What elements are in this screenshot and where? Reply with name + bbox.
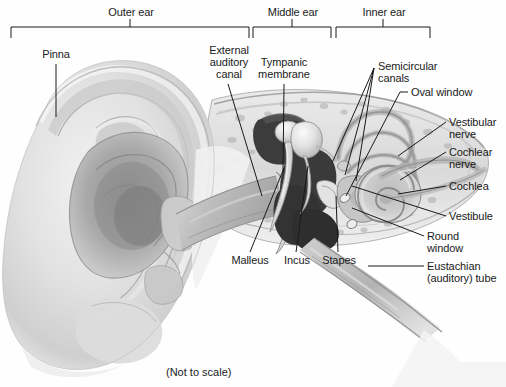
label-eustachian-tube-line2: (auditory) tube xyxy=(427,272,496,284)
bracket-label-middle-ear: Middle ear xyxy=(258,6,328,18)
label-vestibular-nerve-line1: Vestibular xyxy=(449,116,496,128)
label-round-window-line2: window xyxy=(427,242,463,254)
label-vestibule: Vestibule xyxy=(449,210,493,222)
label-external-auditory-canal-line1: External xyxy=(198,44,260,56)
label-malleus: Malleus xyxy=(222,254,278,266)
label-round-window-line1: Round xyxy=(427,230,459,242)
label-cochlea: Cochlea xyxy=(449,180,489,192)
label-semicircular-canals-line2: canals xyxy=(378,72,409,84)
ear-anatomy-diagram: Outer ear Middle ear Inner ear Pinna Ext… xyxy=(0,0,506,387)
bracket-label-inner-ear: Inner ear xyxy=(349,6,419,18)
label-stapes: Stapes xyxy=(314,254,364,266)
label-external-auditory-canal-line2: auditory xyxy=(198,56,260,68)
label-pinna: Pinna xyxy=(26,48,86,60)
label-vestibular-nerve-line2: nerve xyxy=(449,128,476,140)
label-tympanic-membrane-line2: membrane xyxy=(252,68,316,80)
label-eustachian-tube-line1: Eustachian xyxy=(427,260,480,272)
bracket-label-outer-ear: Outer ear xyxy=(96,6,166,18)
not-to-scale-note: (Not to scale) xyxy=(166,366,231,378)
label-external-auditory-canal-line3: canal xyxy=(198,68,260,80)
label-oval-window: Oval window xyxy=(411,86,472,98)
label-cochlear-nerve-line1: Cochlear xyxy=(449,146,492,158)
label-tympanic-membrane-line1: Tympanic xyxy=(252,56,316,68)
label-cochlear-nerve-line2: nerve xyxy=(449,158,476,170)
label-semicircular-canals-line1: Semicircular xyxy=(378,60,437,72)
